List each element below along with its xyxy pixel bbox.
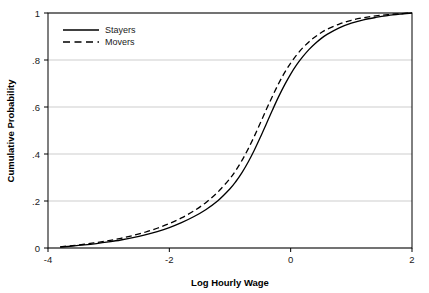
x-tick-label: -2 <box>165 254 173 265</box>
x-tick-label: 2 <box>409 254 414 265</box>
y-tick-label: 0 <box>35 243 40 254</box>
y-tick-label: .4 <box>32 149 40 160</box>
y-tick-label: .8 <box>32 55 40 66</box>
chart-canvas: -4-202 0.2.4.6.81 StayersMovers Log Hour… <box>0 0 429 293</box>
x-axis-title: Log Hourly Wage <box>191 277 269 288</box>
y-axis-title: Cumulative Probability <box>5 79 16 183</box>
y-tick-label: .6 <box>32 102 40 113</box>
x-tick-label: -4 <box>44 254 52 265</box>
chart-background <box>0 0 429 293</box>
y-tick-label: 1 <box>35 8 40 19</box>
y-tick-label: .2 <box>32 196 40 207</box>
legend-label-movers: Movers <box>105 37 135 47</box>
x-tick-label: 0 <box>288 254 293 265</box>
legend-label-stayers: Stayers <box>105 25 136 35</box>
cdf-chart: -4-202 0.2.4.6.81 StayersMovers Log Hour… <box>0 0 429 293</box>
